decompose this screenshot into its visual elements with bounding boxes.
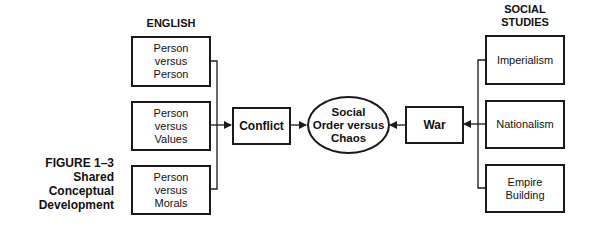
box-label: Person versus Morals xyxy=(154,171,189,210)
box-nationalism: Nationalism xyxy=(485,100,565,149)
box-label: Person versus Person xyxy=(154,42,189,81)
box-empire-building: Empire Building xyxy=(485,164,565,213)
box-imperialism: Imperialism xyxy=(485,35,565,85)
box-person-versus-person: Person versus Person xyxy=(131,36,211,87)
box-label: Nationalism xyxy=(496,118,553,131)
social-studies-header: SOCIAL STUDIES xyxy=(485,3,565,29)
figure-caption: FIGURE 1–3 Shared Conceptual Development xyxy=(20,156,114,212)
caption-number: FIGURE 1–3 xyxy=(20,156,114,170)
box-label: Person versus Values xyxy=(154,107,189,146)
box-conflict: Conflict xyxy=(232,107,291,145)
box-label: Imperialism xyxy=(497,54,553,67)
english-header: ENGLISH xyxy=(131,17,211,30)
caption-line-3: Development xyxy=(20,198,114,212)
box-war: War xyxy=(405,106,464,144)
box-label: Conflict xyxy=(239,120,284,133)
box-person-versus-values: Person versus Values xyxy=(131,101,211,151)
ellipse-social-order-versus-chaos: Social Order versus Chaos xyxy=(307,96,390,154)
box-label: Empire Building xyxy=(505,176,544,202)
ellipse-label: Social Order versus Chaos xyxy=(313,106,385,145)
box-person-versus-morals: Person versus Morals xyxy=(131,165,211,215)
caption-line-2: Conceptual xyxy=(20,184,114,198)
caption-line-1: Shared xyxy=(20,170,114,184)
box-label: War xyxy=(423,119,445,132)
